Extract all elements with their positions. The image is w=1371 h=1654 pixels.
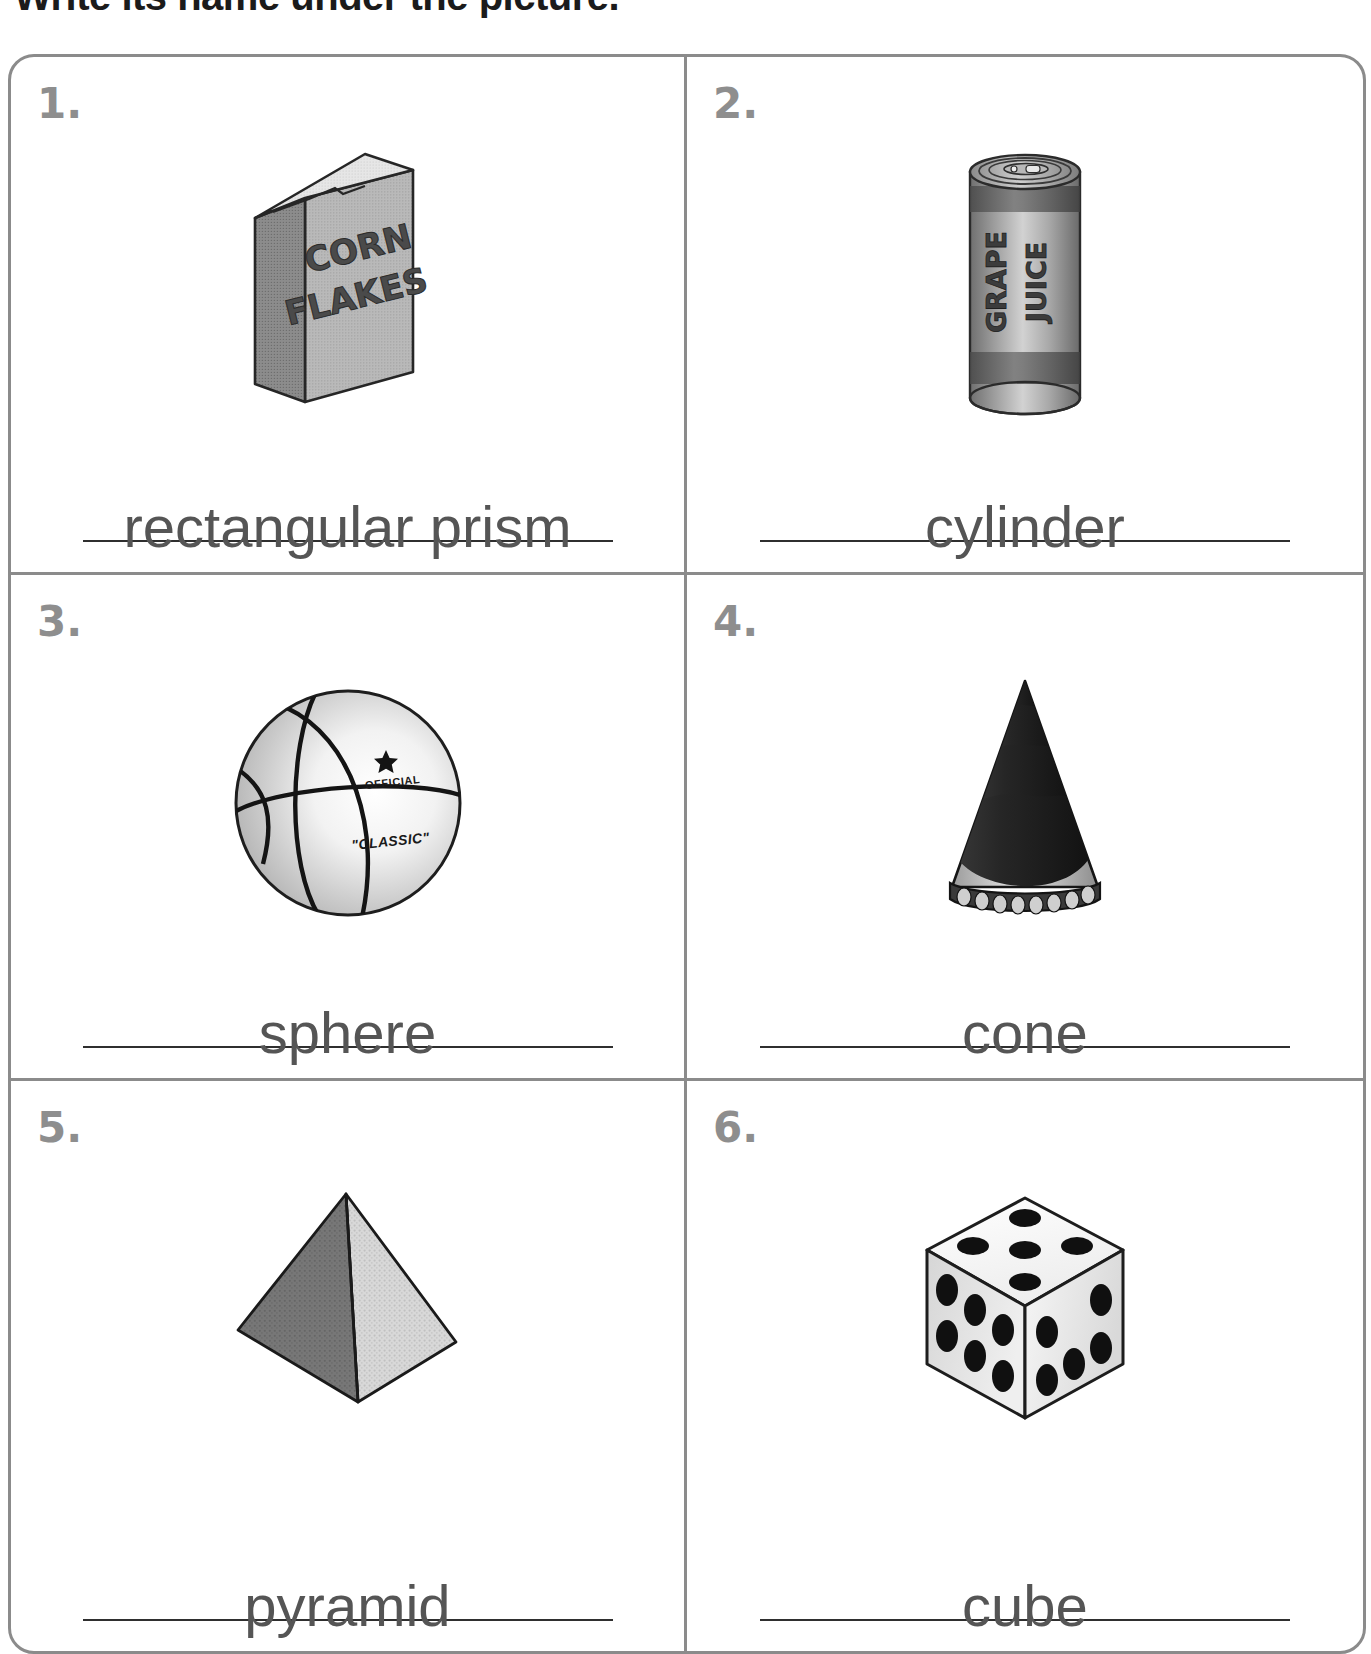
answer-text: cone [760,1004,1290,1062]
worksheet-item-1: 1. [11,57,687,575]
basketball-icon: OFFICIAL "CLASSIC" [223,678,473,928]
answer-text: rectangular prism [83,498,613,556]
answer-text: cube [760,1577,1290,1635]
item-picture-juice-can: GRAPE JUICE [687,135,1363,435]
item-number: 5. [37,1103,82,1152]
item-picture-party-hat [687,653,1363,953]
worksheet-item-5: 5. [11,1081,687,1651]
juice-can-icon: GRAPE JUICE [950,140,1100,430]
party-hat-icon [920,673,1130,933]
answer-text: pyramid [83,1577,613,1635]
can-brand-line2: JUICE [1021,242,1052,324]
item-number: 1. [37,79,82,128]
instruction-text: Write its name under the picture. [14,0,619,19]
answer-field-4[interactable]: cone [760,1004,1290,1048]
answer-field-3[interactable]: sphere [83,1004,613,1048]
answer-field-1[interactable]: rectangular prism [83,498,613,542]
item-picture-basketball: OFFICIAL "CLASSIC" [11,653,684,953]
worksheet-item-3: 3. [11,575,687,1081]
item-number: 2. [713,79,758,128]
worksheet-item-2: 2. [687,57,1363,575]
answer-field-5[interactable]: pyramid [83,1577,613,1621]
answer-text: sphere [83,1004,613,1062]
item-number: 6. [713,1103,758,1152]
worksheet-item-4: 4. [687,575,1363,1081]
item-number: 3. [37,597,82,646]
cereal-box-icon: CORN FLAKES [243,140,453,430]
answer-field-2[interactable]: cylinder [760,498,1290,542]
item-picture-cereal-box: CORN FLAKES [11,135,684,435]
pyramid-icon [218,1184,478,1434]
can-brand-line1: GRAPE [981,231,1012,333]
item-picture-dice [687,1159,1363,1459]
answer-text: cylinder [760,498,1290,556]
dice-icon [913,1184,1138,1434]
item-picture-pyramid [11,1159,684,1459]
worksheet-grid: 1. [11,57,1363,1651]
worksheet-frame: 1. [8,54,1366,1654]
answer-field-6[interactable]: cube [760,1577,1290,1621]
worksheet-item-6: 6. [687,1081,1363,1651]
item-number: 4. [713,597,758,646]
